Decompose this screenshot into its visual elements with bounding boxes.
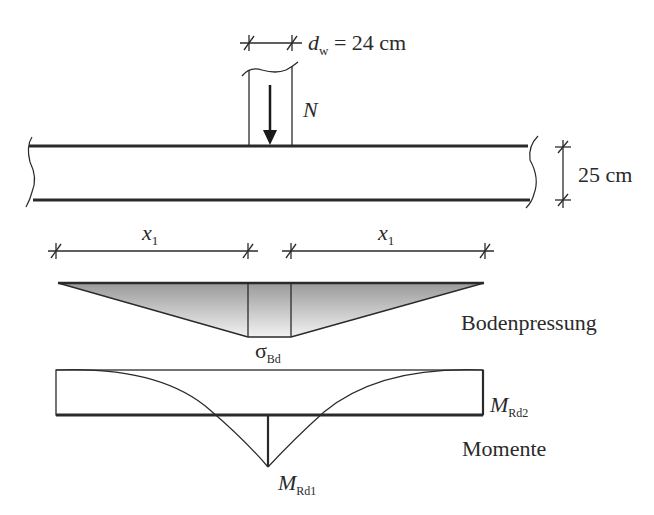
axial-force-label: N: [302, 97, 319, 122]
moments-title: Momente: [462, 436, 546, 461]
foundation-diagram: dw = 24 cm N 25 cm x1: [0, 0, 654, 515]
column-width-dimension: [240, 35, 302, 51]
foundation-slab: [26, 136, 538, 208]
moment-mrd1-label: MRd1: [277, 470, 316, 498]
soil-pressure-title: Bodenpressung: [461, 310, 597, 335]
span-dimensions: [48, 243, 494, 259]
moment-mrd2-label: MRd2: [489, 392, 528, 420]
column-width-label: dw = 24 cm: [308, 30, 406, 58]
soil-pressure-symbol: σBd: [255, 338, 281, 366]
soil-pressure-diagram: [58, 283, 484, 337]
slab-thickness-label: 25 cm: [578, 162, 632, 187]
moment-diagram: [56, 370, 483, 467]
right-span-label: x1: [377, 220, 394, 248]
axial-force-arrow-icon: [263, 85, 277, 145]
left-span-label: x1: [141, 220, 158, 248]
slab-thickness-dimension: [555, 140, 571, 208]
